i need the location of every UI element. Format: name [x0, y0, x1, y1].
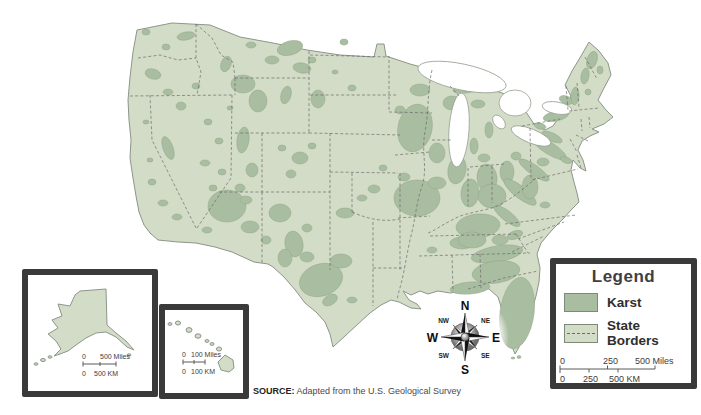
alaska-scale-km-zero: 0: [82, 370, 86, 377]
compass-label-southeast: SE: [481, 352, 490, 359]
compass-label-northeast: NE: [481, 317, 491, 324]
scale-miles-500: 500 Miles: [635, 356, 674, 366]
compass-label-southwest: SW: [439, 352, 450, 359]
legend-scale-bar: 0 250 500 Miles 0 250 500 KM: [557, 355, 693, 388]
source-prefix: SOURCE:: [253, 386, 295, 396]
legend-title: Legend: [556, 267, 691, 287]
state-borders-label: State Borders: [607, 318, 691, 348]
lake-huron-shape: [499, 90, 531, 116]
alaska-scale-miles-zero: 0: [82, 353, 86, 360]
hawaii-inset: 0 100 Miles 0 100 KM: [159, 304, 249, 399]
hawaii-scale-miles-label: 100 Miles: [191, 351, 221, 358]
legend-item-state-borders: State Borders: [564, 318, 691, 348]
hawaii-scale-bar: 0 100 Miles 0 100 KM: [182, 351, 221, 375]
alaska-scale-miles-label: 500 Miles: [100, 353, 130, 360]
compass-hub: [461, 333, 469, 341]
scale-km-500: 500 KM: [609, 374, 640, 384]
legend-box: Legend Karst State Borders 0 250 500 Mil…: [550, 258, 697, 389]
source-note: SOURCE: Adapted from the U.S. Geological…: [253, 386, 461, 396]
compass-label-east: E: [492, 331, 500, 345]
hawaii-scale-km-zero: 0: [182, 368, 186, 375]
alaska-scale-bar: 0 500 Miles 0 500 KM: [82, 353, 130, 377]
legend-item-karst: Karst: [564, 293, 691, 312]
alaska-shape: [48, 289, 134, 356]
source-text: Adapted from the U.S. Geological Survey: [297, 386, 462, 396]
compass-label-west: W: [427, 331, 439, 345]
scale-miles-250: 250: [603, 356, 618, 366]
karst-label: Karst: [607, 295, 642, 310]
compass-label-south: S: [461, 363, 469, 377]
karst-swatch: [564, 293, 598, 312]
compass-rose: N E S W NW NE SW SE: [421, 293, 509, 381]
hawaii-scale-km-label: 100 KM: [191, 368, 215, 375]
alaska-inset-map: 0 500 Miles 0 500 KM: [28, 275, 152, 391]
compass-label-northwest: NW: [438, 317, 450, 324]
alaska-scale-km-label: 500 KM: [94, 370, 118, 377]
state-border-dash-sample: [567, 333, 595, 334]
aleutian-island: [34, 363, 38, 365]
aleutian-island: [41, 359, 46, 362]
alaska-inset: 0 500 Miles 0 500 KM: [22, 269, 158, 397]
scale-km-0: 0: [560, 374, 565, 384]
hawaii-inset-map: 0 100 Miles 0 100 KM: [165, 310, 243, 393]
hawaii-scale-miles-zero: 0: [182, 351, 186, 358]
karst-map-page: N E S W NW NE SW SE 0 500 Miles 0 500 KM: [0, 0, 701, 415]
aleutian-island: [48, 356, 52, 358]
hawaii-islands: [168, 321, 234, 372]
scale-km-250: 250: [583, 374, 598, 384]
scale-miles-0: 0: [560, 356, 565, 366]
state-borders-swatch: [564, 324, 598, 343]
compass-label-north: N: [461, 299, 470, 313]
